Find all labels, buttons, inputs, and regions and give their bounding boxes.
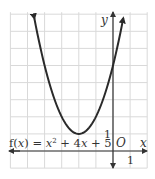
y-axis-label: y: [100, 13, 108, 27]
function-label: f(x) = x2 + 4x + 5: [9, 136, 112, 150]
origin-label: O: [116, 136, 126, 150]
parabola-chart: y x O 1 1 f(x) = x2 + 4x + 5: [0, 0, 155, 179]
x-tick-label: 1: [127, 154, 134, 167]
x-axis-label: x: [140, 136, 147, 150]
